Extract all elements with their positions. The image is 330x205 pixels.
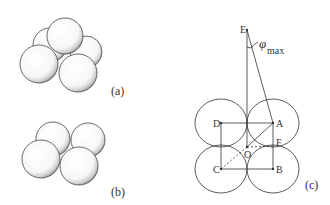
point-label-d: D (213, 118, 220, 129)
point-label-b: B (276, 164, 283, 175)
sphere-top (47, 18, 83, 54)
point-label-c: C (213, 164, 220, 175)
point-label-e: E (240, 24, 246, 35)
figure-canvas: (a) (b) E (0, 0, 330, 205)
panel-b-label: (b) (111, 185, 125, 199)
sphere-front-right (59, 54, 97, 92)
angle-subscript: max (267, 45, 284, 56)
point-label-o: O (244, 149, 251, 160)
point-label-f: F (276, 137, 282, 148)
panel-c-label: (c) (305, 178, 318, 192)
panel-b-spheres (22, 122, 105, 185)
panel-a-spheres (20, 18, 102, 92)
angle-leader (251, 42, 258, 48)
panel-a-label: (a) (111, 84, 124, 98)
sphere-front-right (60, 147, 98, 185)
point-label-a: A (276, 118, 284, 129)
sphere-front-left (22, 140, 60, 178)
sphere-front-left (20, 45, 58, 83)
angle-symbol: φ (259, 36, 266, 51)
